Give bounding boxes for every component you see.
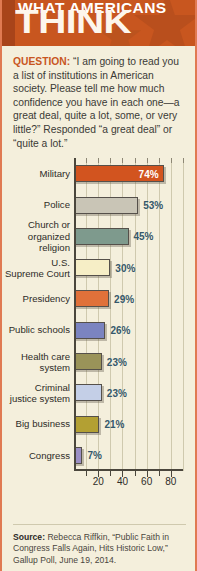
x-tick-label: 40: [117, 476, 128, 487]
top-tick: [110, 158, 111, 163]
infographic-panel: WHAT AMERICANS THINK QUESTION: “I am goi…: [0, 0, 197, 571]
bar-church-or-organized-religion: [74, 228, 129, 245]
source-label: Source:: [13, 532, 45, 542]
bar-row: 74%: [74, 158, 183, 189]
header-bottom-rule: [2, 46, 195, 49]
x-tick-label: 80: [165, 476, 176, 487]
bar-value-label: 45%: [134, 231, 154, 242]
source-note: Source: Rebecca Riffkin, “Public Faith i…: [13, 532, 186, 566]
category-label: Congress: [2, 450, 70, 461]
header-left-band: [2, 0, 15, 49]
question-text: “I am going to read you a list of instit…: [13, 56, 180, 149]
top-tick: [122, 158, 123, 163]
bar-value-label: 23%: [107, 356, 127, 367]
bar-police: [74, 197, 138, 214]
bar-value-label: 7%: [87, 450, 101, 461]
category-label: Criminaljustice system: [2, 382, 70, 404]
category-label: Military: [2, 168, 70, 179]
bar-value-label: 23%: [107, 387, 127, 398]
x-axis-tick-labels: 20406080: [74, 476, 183, 490]
bar-row: 26%: [74, 315, 183, 346]
bar-value-label: 74%: [139, 168, 159, 179]
bar-row: 23%: [74, 377, 183, 408]
gridline: [183, 158, 184, 471]
bar-row: 23%: [74, 346, 183, 377]
top-tick: [86, 158, 87, 163]
bar-health-care-system: [74, 353, 102, 370]
category-axis-labels: MilitaryPoliceChurch ororganizedreligion…: [2, 158, 72, 471]
bar-chart: MilitaryPoliceChurch ororganizedreligion…: [2, 158, 195, 488]
top-tick: [147, 158, 148, 163]
question-block: QUESTION: “I am going to read you a list…: [13, 55, 186, 150]
top-tick: [159, 158, 160, 163]
bar-value-label: 21%: [104, 419, 124, 430]
bar-value-label: 53%: [143, 200, 163, 211]
x-axis-line: [74, 469, 183, 471]
category-label: Police: [2, 199, 70, 210]
bar-row: 45%: [74, 221, 183, 252]
header-line-2: THINK: [15, 5, 131, 38]
x-tick-label: 60: [141, 476, 152, 487]
bar-row: 29%: [74, 283, 183, 314]
x-tick-label: 20: [93, 476, 104, 487]
bar-presidency: [74, 290, 109, 307]
bar-u-s-supreme-court: [74, 259, 110, 276]
top-tick: [98, 158, 99, 163]
source-divider: [13, 524, 186, 525]
bar-row: 30%: [74, 252, 183, 283]
top-tick: [171, 158, 172, 163]
category-label: Big business: [2, 419, 70, 430]
bar-rows: 74%53%45%30%29%26%23%23%21%7%: [74, 158, 183, 471]
bar-value-label: 29%: [114, 293, 134, 304]
category-label: Church ororganizedreligion: [2, 220, 70, 254]
bar-criminal-justice-system: [74, 384, 102, 401]
bar-value-label: 26%: [110, 325, 130, 336]
bar-row: 7%: [74, 440, 183, 471]
category-label: Presidency: [2, 293, 70, 304]
bar-row: 53%: [74, 189, 183, 220]
bar-value-label: 30%: [115, 262, 135, 273]
bar-big-business: [74, 416, 99, 433]
category-label: Health caresystem: [2, 350, 70, 372]
top-tick: [135, 158, 136, 163]
bar-row: 21%: [74, 409, 183, 440]
bar-public-schools: [74, 322, 105, 339]
header-banner: WHAT AMERICANS THINK: [2, 0, 195, 49]
y-axis-line: [74, 158, 76, 471]
question-label: QUESTION:: [13, 56, 70, 67]
top-tick: [183, 158, 184, 163]
category-label: U.S.Supreme Court: [2, 257, 70, 279]
plot-area: 74%53%45%30%29%26%23%23%21%7%: [74, 158, 183, 471]
category-label: Public schools: [2, 325, 70, 336]
bar-military: 74%: [74, 165, 164, 182]
